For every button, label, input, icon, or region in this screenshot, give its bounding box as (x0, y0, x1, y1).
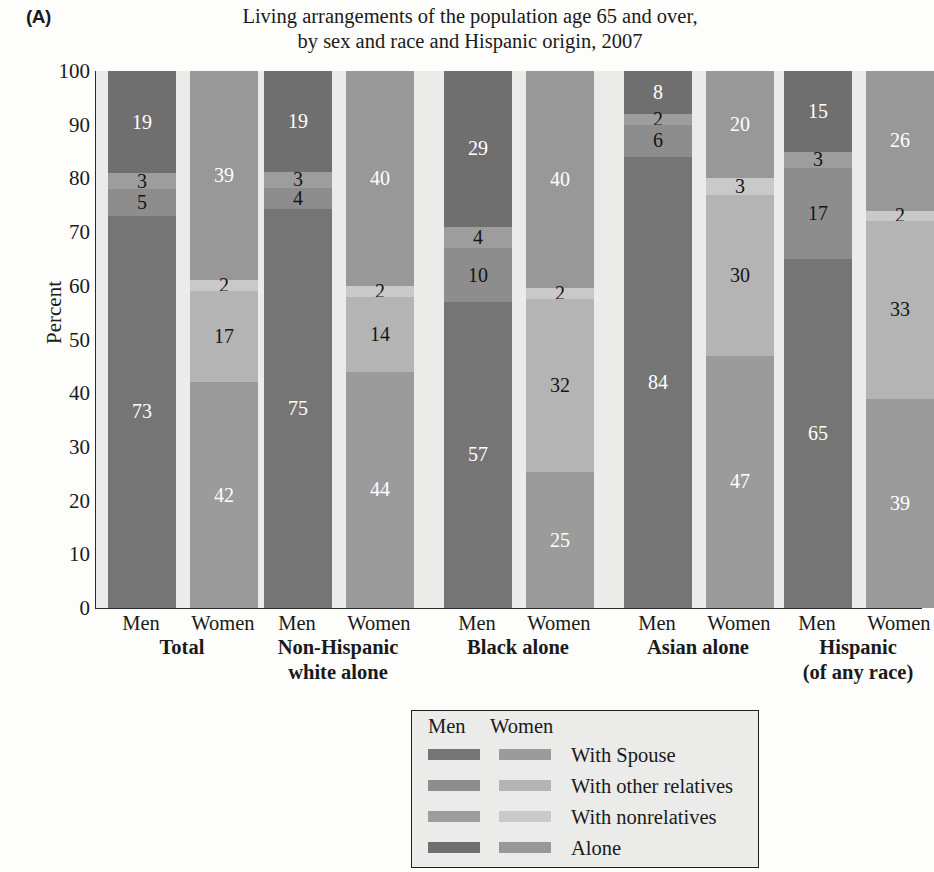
bar-segment[interactable]: 33 (866, 221, 934, 398)
bar-segment[interactable]: 19 (108, 71, 176, 173)
stacked-bar-men[interactable]: 82684 (624, 71, 692, 608)
bar-segment-value: 19 (288, 111, 308, 131)
bar-segment[interactable]: 10 (444, 248, 512, 302)
bar-segment[interactable]: 3 (706, 178, 774, 194)
bar-segment-value: 40 (370, 168, 390, 188)
legend-row[interactable]: With Spouse (428, 739, 748, 770)
bar-segment[interactable]: 30 (706, 195, 774, 356)
legend-label: Alone (571, 837, 621, 859)
bar-segment[interactable]: 26 (866, 71, 934, 211)
bar-segment[interactable]: 19 (264, 71, 332, 172)
bar-segment-value: 57 (468, 444, 488, 464)
legend-swatch-women (499, 780, 551, 791)
legend-row[interactable]: With nonrelatives (428, 801, 748, 832)
bar-segment-value: 75 (288, 398, 308, 418)
bar-group: 826842033047 (624, 71, 774, 608)
bar-segment[interactable]: 2 (346, 286, 414, 297)
bar-segment[interactable]: 44 (346, 372, 414, 608)
stacked-bar-women[interactable]: 2623339 (866, 71, 934, 608)
bar-segment[interactable]: 4 (444, 227, 512, 248)
stacked-bar-women[interactable]: 2033047 (706, 71, 774, 608)
bar-group: 1934754021444 (264, 71, 414, 608)
stacked-bar-men[interactable]: 2941057 (444, 71, 512, 608)
bar-segment-value: 47 (730, 471, 750, 491)
y-tick-label-70: 70 (20, 222, 90, 243)
bar-segment[interactable]: 25 (526, 472, 594, 608)
bar-segment[interactable]: 3 (264, 172, 332, 188)
bar-group: 1935733921742 (108, 71, 258, 608)
x-axis-category-name: Black alone (443, 635, 593, 659)
bar-segment[interactable]: 73 (108, 216, 176, 608)
bar-segment[interactable]: 75 (264, 209, 332, 608)
y-tick-label-30: 30 (20, 437, 90, 458)
stacked-bar-women[interactable]: 3921742 (190, 71, 258, 608)
bar-segment[interactable]: 5 (108, 189, 176, 216)
bar-segment[interactable]: 32 (526, 299, 594, 473)
x-axis-sex-label: Women (865, 612, 933, 634)
bar-segment[interactable]: 2 (526, 288, 594, 299)
x-axis-sex-row: MenWomen (623, 612, 773, 634)
legend-swatch-men (428, 749, 480, 760)
x-axis-category-name: Total (107, 635, 257, 659)
stacked-bar-women[interactable]: 4021444 (346, 71, 414, 608)
x-axis-group-label: MenWomenAsian alone (623, 612, 773, 659)
stacked-bar-men[interactable]: 193475 (264, 71, 332, 608)
bar-segment[interactable]: 2 (190, 280, 258, 291)
bar-segment[interactable]: 2 (624, 114, 692, 125)
stacked-bar-women[interactable]: 4023225 (526, 71, 594, 608)
x-axis-sex-label: Men (263, 612, 331, 634)
bar-segment-value: 3 (813, 149, 823, 169)
legend-row[interactable]: Alone (428, 832, 748, 863)
bar-segment-value: 26 (890, 130, 910, 150)
bar-segment[interactable]: 15 (784, 71, 852, 152)
legend-swatch-men (428, 811, 480, 822)
y-tick-label-20: 20 (20, 491, 90, 512)
x-axis-group-label: MenWomenTotal (107, 612, 257, 659)
bar-segment-value: 73 (132, 401, 152, 421)
bar-segment[interactable]: 2 (866, 211, 934, 222)
bar-segment[interactable]: 20 (706, 71, 774, 178)
legend-header-men: Men (428, 715, 490, 737)
x-axis-category-name: Asian alone (623, 635, 773, 659)
bar-segment-value: 32 (550, 375, 570, 395)
legend-swatch-men (428, 780, 480, 791)
bar-segment[interactable]: 47 (706, 356, 774, 608)
bar-segment[interactable]: 57 (444, 302, 512, 608)
legend-header: Men Women (428, 715, 574, 737)
bar-segment[interactable]: 39 (190, 71, 258, 280)
legend-swatch-men (428, 842, 480, 853)
stacked-bar-men[interactable]: 1531765 (784, 71, 852, 608)
bar-segment-value: 17 (808, 203, 828, 223)
y-tick-label-0: 0 (20, 598, 90, 619)
bar-segment[interactable]: 4 (264, 188, 332, 209)
x-axis-group-label: MenWomenHispanic(of any race) (783, 612, 933, 684)
bar-segment[interactable]: 14 (346, 297, 414, 372)
bar-segment[interactable]: 3 (784, 152, 852, 168)
x-axis-sex-label: Men (107, 612, 175, 634)
bar-segment-value: 84 (648, 372, 668, 392)
bar-segment-value: 65 (808, 423, 828, 443)
y-tick-label-60: 60 (20, 276, 90, 297)
bar-segment[interactable]: 6 (624, 125, 692, 157)
bar-segment-value: 29 (468, 138, 488, 158)
x-axis-sex-label: Women (189, 612, 257, 634)
bar-segment[interactable]: 39 (866, 399, 934, 608)
bar-segment[interactable]: 29 (444, 71, 512, 227)
bar-segment[interactable]: 3 (108, 173, 176, 189)
y-axis-tick-labels: 1009080706050403020100 (14, 0, 90, 700)
bar-segment[interactable]: 40 (346, 71, 414, 286)
bar-segment-value: 5 (137, 192, 147, 212)
x-axis-sex-row: MenWomen (783, 612, 933, 634)
bar-segment[interactable]: 17 (784, 168, 852, 259)
bar-segment[interactable]: 17 (190, 291, 258, 382)
stacked-bar-men[interactable]: 193573 (108, 71, 176, 608)
bar-segment[interactable]: 84 (624, 157, 692, 608)
bar-segment[interactable]: 40 (526, 71, 594, 288)
bar-group: 15317652623339 (784, 71, 934, 608)
bar-segment-value: 33 (890, 299, 910, 319)
bar-segment[interactable]: 42 (190, 382, 258, 608)
bar-segment-value: 20 (730, 114, 750, 134)
x-axis-group-label: MenWomenNon-Hispanicwhite alone (263, 612, 413, 684)
bar-segment[interactable]: 65 (784, 259, 852, 608)
legend-row[interactable]: With other relatives (428, 770, 748, 801)
